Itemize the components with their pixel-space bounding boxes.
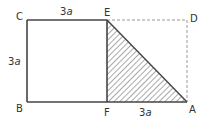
point-label-c: C	[16, 11, 23, 22]
point-label-a: A	[189, 104, 196, 115]
point-label-f: F	[104, 107, 110, 118]
dimension-var: a	[66, 6, 72, 17]
dimension-label-bottom: 3a	[139, 107, 152, 118]
dimension-var: a	[14, 56, 20, 67]
dimension-label-left: 3a	[8, 56, 21, 67]
geometry-diagram: C E D B F A 3a 3a 3a	[0, 0, 202, 122]
point-label-b: B	[16, 103, 23, 114]
point-label-e: E	[104, 7, 110, 18]
dimension-label-top: 3a	[60, 6, 73, 17]
dimension-var: a	[145, 107, 151, 118]
point-label-d: D	[190, 13, 198, 24]
